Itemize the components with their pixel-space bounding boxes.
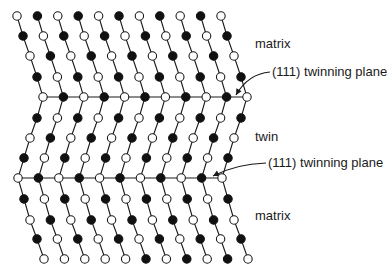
open-atom (122, 195, 130, 203)
filled-atom (128, 134, 136, 142)
filled-atom (33, 114, 41, 122)
open-atom (107, 134, 115, 142)
open-atom (26, 52, 34, 60)
filled-atom (87, 52, 95, 60)
open-atom (54, 12, 62, 20)
filled-atom (74, 73, 82, 81)
filled-atom (74, 235, 82, 243)
filled-atom (237, 114, 245, 122)
arrowhead-icon (236, 88, 242, 95)
twinning-plane-label-bottom: (111) twinning plane (268, 156, 383, 169)
open-atom (94, 114, 102, 122)
open-atom (81, 255, 89, 263)
open-atom (161, 93, 169, 101)
filled-atom (128, 216, 136, 224)
filled-atom (87, 216, 95, 224)
filled-atom (169, 216, 177, 224)
open-atom (203, 154, 211, 162)
filled-atom (237, 73, 245, 81)
open-atom (67, 134, 75, 142)
filled-atom (196, 114, 204, 122)
open-atom (135, 114, 143, 122)
open-atom (121, 255, 129, 263)
filled-atom (169, 52, 177, 60)
filled-atom (33, 12, 41, 20)
filled-atom (61, 195, 69, 203)
filled-atom (157, 174, 165, 182)
open-atom (176, 114, 184, 122)
filled-atom (101, 154, 109, 162)
open-atom (176, 73, 184, 81)
open-atom (39, 32, 47, 40)
filled-atom (223, 255, 231, 263)
filled-atom (155, 235, 163, 243)
filled-atom (183, 195, 191, 203)
filled-atom (155, 73, 163, 81)
open-atom (148, 134, 156, 142)
filled-atom (20, 195, 28, 203)
open-atom (243, 93, 251, 101)
filled-atom (224, 154, 232, 162)
filled-atom (155, 114, 163, 122)
open-atom (203, 255, 211, 263)
filled-atom (20, 154, 28, 162)
open-atom (176, 12, 184, 20)
filled-atom (100, 32, 108, 40)
open-atom (107, 52, 115, 60)
open-atom (148, 216, 156, 224)
filled-atom (114, 73, 122, 81)
filled-atom (101, 195, 109, 203)
open-atom (230, 134, 238, 142)
open-atom (122, 154, 130, 162)
open-atom (94, 235, 102, 243)
filled-atom (237, 235, 245, 243)
open-atom (53, 114, 61, 122)
filled-atom (46, 52, 54, 60)
filled-atom (61, 154, 69, 162)
open-atom (80, 93, 88, 101)
filled-atom (142, 154, 150, 162)
filled-atom (33, 73, 41, 81)
filled-atom (115, 12, 123, 20)
open-atom (101, 255, 109, 263)
open-atom (218, 174, 226, 182)
filled-atom (74, 114, 82, 122)
twin-label: twin (255, 130, 278, 143)
open-atom (135, 235, 143, 243)
filled-atom (141, 32, 149, 40)
open-atom (148, 52, 156, 60)
open-atom (189, 52, 197, 60)
filled-atom (46, 134, 54, 142)
filled-atom (142, 255, 150, 263)
open-atom (53, 235, 61, 243)
open-atom (14, 174, 22, 182)
filled-atom (196, 235, 204, 243)
open-atom (67, 52, 75, 60)
filled-atom (156, 12, 164, 20)
open-atom (120, 93, 128, 101)
open-atom (135, 73, 143, 81)
open-atom (26, 134, 34, 142)
filled-atom (33, 235, 41, 243)
filled-atom (197, 174, 205, 182)
open-atom (94, 73, 102, 81)
open-atom (230, 216, 238, 224)
filled-atom (196, 12, 204, 20)
open-atom (217, 12, 225, 20)
open-atom (176, 235, 184, 243)
open-atom (136, 174, 144, 182)
open-atom (216, 73, 224, 81)
filled-atom (128, 52, 136, 60)
open-atom (81, 154, 89, 162)
open-atom (53, 73, 61, 81)
open-atom (216, 235, 224, 243)
open-atom (216, 114, 224, 122)
matrix-label-bottom: matrix (255, 209, 290, 222)
filled-atom (19, 32, 27, 40)
open-atom (163, 195, 171, 203)
open-atom (163, 154, 171, 162)
filled-atom (60, 32, 68, 40)
filled-atom (222, 93, 230, 101)
open-atom (189, 134, 197, 142)
